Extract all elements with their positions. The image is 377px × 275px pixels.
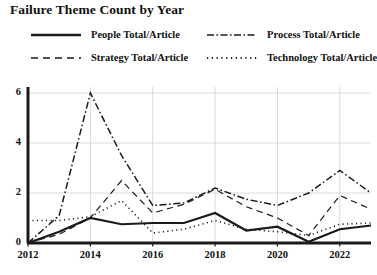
x-tick-label: 2018 bbox=[195, 249, 235, 260]
y-tick-label: 2 bbox=[7, 186, 21, 197]
gridlines bbox=[28, 87, 371, 243]
series-line-process bbox=[28, 93, 371, 243]
series-lines bbox=[28, 93, 371, 243]
series-line-people bbox=[28, 213, 371, 243]
y-tick-label: 0 bbox=[7, 236, 21, 247]
x-tick-label: 2020 bbox=[257, 249, 297, 260]
x-tick-label: 2012 bbox=[8, 249, 48, 260]
x-tick-label: 2016 bbox=[133, 249, 173, 260]
series-line-strategy bbox=[28, 181, 371, 244]
x-tick-label: 2014 bbox=[70, 249, 110, 260]
y-tick-label: 6 bbox=[7, 86, 21, 97]
axis-lines bbox=[27, 87, 371, 243]
x-tick-label: 2022 bbox=[320, 249, 360, 260]
y-tick-label: 4 bbox=[7, 136, 21, 147]
